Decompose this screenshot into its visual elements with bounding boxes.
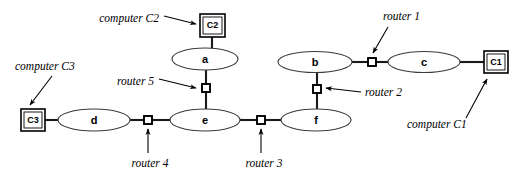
- leader-computer-c1: [466, 79, 487, 118]
- computer-c2-label: C2: [207, 20, 219, 30]
- leader-computer-c3: [30, 76, 52, 105]
- net-e-label: e: [202, 114, 208, 126]
- annotation-text-layer: computer C2 computer C3 computer C1 rout…: [15, 10, 467, 169]
- computer-c1-label: C1: [490, 57, 502, 67]
- leader-router-2: [326, 88, 361, 92]
- annotation-leaders-layer: [30, 16, 487, 153]
- computer-c3-label: C3: [27, 115, 39, 125]
- annotation-router-4: router 4: [132, 157, 169, 169]
- network-segment-a[interactable]: a: [172, 48, 238, 70]
- net-c-label: c: [421, 56, 427, 68]
- network-diagram: a b c d e f: [0, 0, 519, 175]
- router-4-node[interactable]: [144, 116, 152, 124]
- annotation-router-3: router 3: [246, 157, 283, 169]
- annotation-computer-c2: computer C2: [99, 12, 159, 25]
- links-layer: [45, 37, 484, 120]
- router-2-node[interactable]: [313, 85, 321, 93]
- net-d-label: d: [91, 114, 98, 126]
- annotation-computer-c3: computer C3: [15, 60, 75, 73]
- router-5-node[interactable]: [202, 84, 210, 92]
- computer-c3[interactable]: C3: [21, 109, 45, 131]
- network-segment-c[interactable]: c: [388, 52, 460, 73]
- leader-computer-c2: [164, 16, 196, 24]
- router-1-node[interactable]: [368, 58, 376, 66]
- annotation-router-1: router 1: [383, 10, 420, 22]
- annotation-computer-c1: computer C1: [407, 118, 467, 131]
- network-diagram-canvas: a b c d e f: [0, 0, 519, 175]
- net-a-label: a: [202, 53, 209, 65]
- annotation-router-2: router 2: [365, 86, 402, 98]
- annotation-router-5: router 5: [117, 75, 154, 87]
- network-segment-d[interactable]: d: [58, 109, 130, 131]
- leader-router-5: [159, 79, 196, 88]
- computer-c2[interactable]: C2: [200, 14, 225, 37]
- network-segment-b[interactable]: b: [278, 52, 352, 73]
- network-segment-e[interactable]: e: [170, 109, 240, 131]
- net-f-label: f: [314, 114, 318, 126]
- network-segment-f[interactable]: f: [281, 109, 351, 131]
- router-3-node[interactable]: [257, 116, 265, 124]
- computer-c1[interactable]: C1: [484, 51, 508, 73]
- leader-router-1: [373, 27, 388, 53]
- net-b-label: b: [312, 56, 319, 68]
